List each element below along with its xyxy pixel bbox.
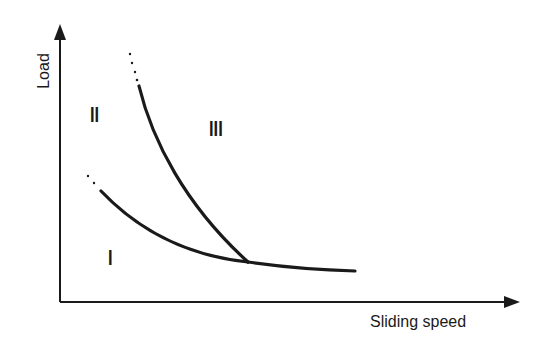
x-axis-arrow-icon — [504, 296, 520, 308]
region-label-I: I — [108, 245, 113, 271]
diagram-canvas — [0, 0, 551, 351]
steep-curve-dotted-extension — [129, 53, 139, 81]
lower-curve-dotted-extension — [87, 175, 95, 184]
region-label-II: II — [90, 102, 99, 128]
steep-curve — [139, 86, 248, 262]
x-axis-label: Sliding speed — [370, 313, 466, 331]
y-axis-label: Load — [35, 41, 53, 101]
region-label-III: III — [209, 116, 223, 142]
common-tail-curve — [248, 262, 355, 271]
lower-curve — [101, 191, 248, 262]
y-axis-arrow-icon — [54, 24, 66, 40]
